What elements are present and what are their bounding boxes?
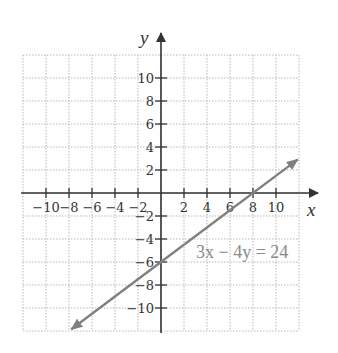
x-tick-label: 2	[180, 200, 188, 215]
y-tick-label: −4	[135, 232, 154, 247]
y-tick-label: −10	[127, 301, 154, 316]
coordinate-plane-chart: −10−8−6−4−2246810108642−2−4−6−8−10 x y 3…	[0, 0, 338, 353]
x-tick-label: −4	[105, 200, 124, 215]
x-axis-label: x	[306, 199, 316, 220]
y-tick-label: 4	[146, 140, 154, 155]
x-tick-label: −10	[32, 200, 59, 215]
y-tick-label: 10	[137, 71, 154, 86]
y-tick-label: −2	[135, 209, 154, 224]
x-tick-label: −8	[59, 200, 78, 215]
y-axis-label: y	[138, 27, 149, 48]
y-tick-label: 8	[146, 94, 154, 109]
x-tick-label: 8	[249, 200, 257, 215]
x-tick-label: −6	[82, 200, 101, 215]
line-segment-lower	[71, 244, 184, 329]
y-tick-label: −6	[135, 255, 154, 270]
y-tick-label: 6	[146, 117, 154, 132]
equation-label: 3x − 4y = 24	[196, 242, 288, 262]
y-tick-label: 2	[146, 163, 154, 178]
x-tick-label: 4	[203, 200, 211, 215]
x-tick-label: 10	[268, 200, 285, 215]
